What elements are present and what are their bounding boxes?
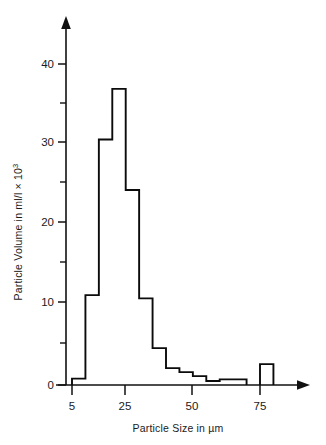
y-axis [61,16,71,385]
y-tick-label-30: 30 [41,136,54,148]
x-tick-label-25: 25 [119,400,132,412]
x-axis-major-ticks [72,385,260,395]
x-axis-arrow-icon [297,380,310,390]
x-tick-label-50: 50 [186,400,199,412]
y-axis-major-ticks [58,64,66,385]
histogram-outline [72,89,273,385]
y-axis-minor-ticks [60,103,66,343]
y-axis-tick-labels: 0 10 20 30 40 [41,58,54,391]
chart-container: 0 10 20 30 40 5 25 50 75 Particle Size i… [0,0,326,445]
y-axis-title: Particle Volume in ml/l × 103 [11,164,24,301]
y-axis-title-group: Particle Volume in ml/l × 103 [11,164,24,301]
y-axis-arrow-icon [61,16,71,29]
particle-size-histogram: 0 10 20 30 40 5 25 50 75 Particle Size i… [0,0,326,445]
x-axis-title: Particle Size in µm [133,422,224,434]
x-tick-label-75: 75 [254,400,267,412]
x-tick-label-5: 5 [69,400,75,412]
y-tick-label-20: 20 [41,216,54,228]
x-axis [56,380,310,390]
x-axis-tick-labels: 5 25 50 75 [69,400,267,412]
y-tick-label-40: 40 [41,58,54,70]
y-tick-label-0: 0 [48,379,54,391]
y-tick-label-10: 10 [41,296,54,308]
